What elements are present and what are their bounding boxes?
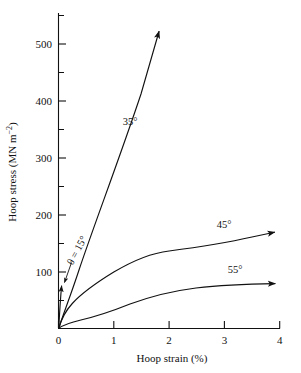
chart-svg: 500 400 300 200 100 0 1 2 3 4 Hoop strai… <box>0 0 301 373</box>
curve-45deg <box>59 232 275 328</box>
y-ticklabel-200: 200 <box>36 209 53 221</box>
series-annotations: θ = 15° 35° 45° 55° <box>65 116 243 283</box>
hoop-stress-strain-chart: 500 400 300 200 100 0 1 2 3 4 Hoop strai… <box>0 0 301 373</box>
x-axis-title: Hoop strain (%) <box>137 352 208 365</box>
series-label-45deg: 45° <box>217 219 232 230</box>
series-label-55deg: 55° <box>228 264 243 275</box>
svg-text:Hoop stress (MN m−2): Hoop stress (MN m−2) <box>5 122 19 222</box>
x-ticklabel-2: 2 <box>166 334 172 346</box>
y-axis-title-exponent: −2 <box>5 126 14 135</box>
y-axis-tick-labels: 500 400 300 200 100 <box>36 38 53 278</box>
series-label-35deg: 35° <box>123 116 138 127</box>
x-ticklabel-0: 0 <box>56 334 62 346</box>
x-axis-ticks <box>59 321 280 329</box>
y-axis-title-close: ) <box>6 122 19 126</box>
y-ticklabel-400: 400 <box>36 95 53 107</box>
curve-35deg <box>59 32 159 329</box>
x-ticklabel-3: 3 <box>222 334 228 346</box>
series-curves <box>59 32 275 329</box>
y-ticklabel-100: 100 <box>36 266 53 278</box>
y-axis-ticks <box>59 16 67 301</box>
y-axis-title-base: Hoop stress (MN m <box>6 134 19 222</box>
curve-55deg <box>59 284 275 329</box>
y-ticklabel-500: 500 <box>36 38 53 50</box>
x-ticklabel-1: 1 <box>111 334 117 346</box>
y-axis-title: Hoop stress (MN m−2) <box>5 122 19 222</box>
y-ticklabel-300: 300 <box>36 152 53 164</box>
x-ticklabel-4: 4 <box>277 334 283 346</box>
x-axis-tick-labels: 0 1 2 3 4 <box>56 334 283 346</box>
axes-group <box>58 13 280 329</box>
